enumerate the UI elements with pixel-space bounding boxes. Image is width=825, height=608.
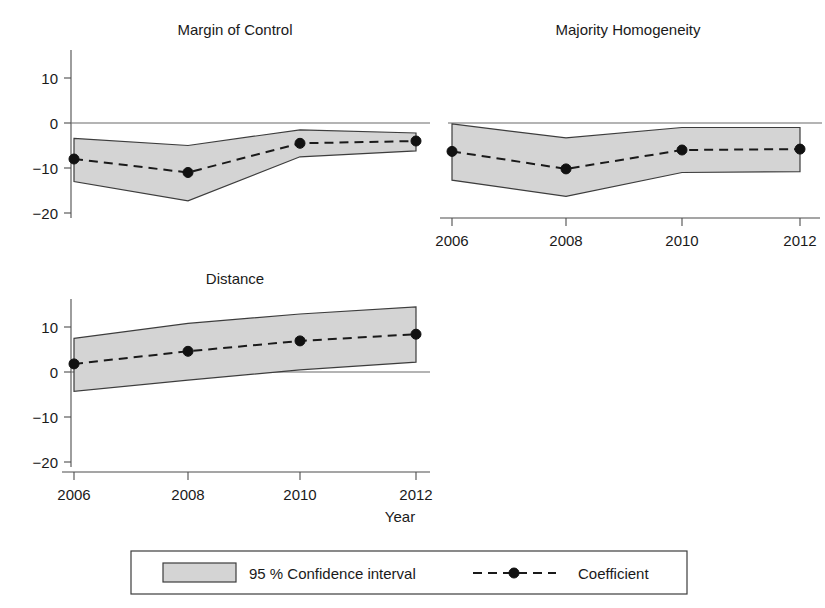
- legend-ci-label: 95 % Confidence interval: [249, 565, 416, 582]
- x-axis-title: Year: [385, 508, 415, 525]
- panel1-ytick-label-0: 0: [50, 115, 58, 132]
- panel2-coefficient-point-2010: [677, 145, 687, 155]
- panel3-xtick-label-2006: 2006: [57, 486, 90, 503]
- panel-title-distance: Distance: [206, 270, 264, 287]
- panel2-coefficient-point-2012: [795, 144, 805, 154]
- panel2-xtick-label-2012: 2012: [783, 232, 816, 249]
- panel3-ytick-label-10: 10: [41, 319, 58, 336]
- figure-container: Margin of Control 10 0 −10 −20 Major: [0, 0, 825, 608]
- panel3-coefficient-point-2012: [411, 329, 421, 339]
- panel-title-majority-homogeneity: Majority Homogeneity: [555, 21, 701, 38]
- panel3-coefficient-point-2006: [69, 359, 79, 369]
- legend-coefficient-point: [509, 568, 519, 578]
- panel3-coefficient-point-2010: [295, 336, 305, 346]
- multi-panel-chart: Margin of Control 10 0 −10 −20 Major: [0, 0, 825, 608]
- panel3-coefficient-point-2008: [183, 346, 193, 356]
- panel3-ytick-label-0: 0: [50, 364, 58, 381]
- panel1-ytick-label-neg10: −10: [33, 160, 58, 177]
- legend-coefficient-label: Coefficient: [578, 565, 649, 582]
- panel1-coefficient-point-2006: [69, 154, 79, 164]
- panel2-coefficient-point-2006: [447, 146, 457, 156]
- panel3-xtick-label-2008: 2008: [171, 486, 204, 503]
- panel2-xtick-label-2008: 2008: [549, 232, 582, 249]
- panel1-coefficient-point-2008: [183, 168, 193, 178]
- panel3-xtick-label-2010: 2010: [283, 486, 316, 503]
- panel2-xtick-label-2010: 2010: [665, 232, 698, 249]
- panel2-coefficient-point-2008: [561, 164, 571, 174]
- panel1-coefficient-point-2012: [411, 136, 421, 146]
- panel2-xtick-label-2006: 2006: [435, 232, 468, 249]
- panel1-ytick-label-10: 10: [41, 70, 58, 87]
- panel3-xtick-label-2012: 2012: [399, 486, 432, 503]
- panel1-ytick-label-neg20: −20: [33, 205, 58, 222]
- panel-title-margin-of-control: Margin of Control: [177, 21, 292, 38]
- legend-ci-swatch: [163, 563, 236, 582]
- panel3-ytick-label-neg20: −20: [33, 454, 58, 471]
- panel3-ytick-label-neg10: −10: [33, 409, 58, 426]
- panel1-coefficient-point-2010: [295, 138, 305, 148]
